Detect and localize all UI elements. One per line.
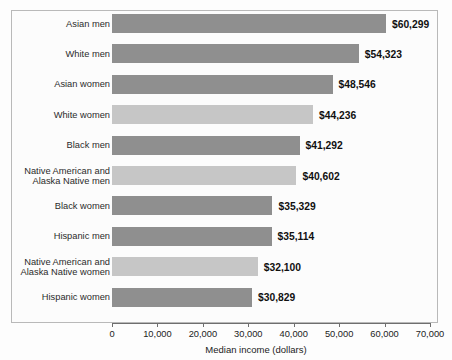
bar-value-label: $60,299	[392, 18, 429, 29]
category-label: Asian men	[6, 18, 110, 29]
bar-value-label: $41,292	[306, 140, 343, 151]
x-axis-line	[112, 323, 430, 324]
bar	[112, 136, 300, 155]
bar-row: White men$54,323	[0, 44, 452, 63]
category-label: White women	[6, 109, 110, 120]
x-axis-tick-label: 10,000	[143, 329, 171, 339]
bar-value-label: $44,236	[319, 109, 356, 120]
x-axis-tick	[339, 323, 340, 327]
category-label: Hispanic women	[6, 292, 110, 303]
bar-value-label: $30,829	[258, 292, 295, 303]
x-axis-tick	[112, 323, 113, 327]
x-axis-tick-label: 40,000	[279, 329, 307, 339]
bar-row: Black women$35,329	[0, 196, 452, 215]
bar	[112, 105, 313, 124]
category-label: Black women	[6, 201, 110, 212]
category-label: White men	[6, 49, 110, 60]
x-axis-tick	[430, 323, 431, 327]
bar-row: Native American and Alaska Native men$40…	[0, 166, 452, 185]
x-axis-tick	[203, 323, 204, 327]
bar-row: Asian men$60,299	[0, 14, 452, 33]
bar-row: Black men$41,292	[0, 136, 452, 155]
x-axis-title-wrap: Median income (dollars)	[0, 344, 452, 355]
bar-value-label: $32,100	[264, 261, 301, 272]
x-axis-tick	[248, 323, 249, 327]
category-label: Native American and Alaska Native women	[6, 256, 110, 277]
bar-value-label: $40,602	[302, 170, 339, 181]
x-axis-tick-label: 60,000	[370, 329, 398, 339]
bar-row: Asian women$48,546	[0, 75, 452, 94]
x-axis-tick	[385, 323, 386, 327]
category-label: Hispanic men	[6, 231, 110, 242]
x-axis-tick-label: 20,000	[189, 329, 217, 339]
bar-value-label: $48,546	[339, 79, 376, 90]
bar-row: Hispanic women$30,829	[0, 288, 452, 307]
bar	[112, 257, 258, 276]
bar-row: White women$44,236	[0, 105, 452, 124]
x-axis-tick-label: 50,000	[325, 329, 353, 339]
bar-rows: Asian men$60,299White men$54,323Asian wo…	[0, 0, 452, 360]
bar	[112, 227, 272, 246]
x-axis-tick-label: 0	[109, 329, 114, 339]
bar-row: Native American and Alaska Native women$…	[0, 257, 452, 276]
x-axis-tick-label: 30,000	[234, 329, 262, 339]
category-label: Native American and Alaska Native men	[6, 165, 110, 186]
x-axis-tick	[294, 323, 295, 327]
bar	[112, 44, 359, 63]
bar-row: Hispanic men$35,114	[0, 227, 452, 246]
bar-value-label: $35,329	[278, 200, 315, 211]
x-axis-tick	[157, 323, 158, 327]
x-axis-tick-label: 70,000	[416, 329, 444, 339]
bar	[112, 14, 386, 33]
bar-value-label: $35,114	[278, 231, 315, 242]
category-label: Asian women	[6, 79, 110, 90]
category-label: Black men	[6, 140, 110, 151]
bar	[112, 288, 252, 307]
x-axis-title: Median income (dollars)	[205, 344, 306, 355]
bar-value-label: $54,323	[365, 48, 402, 59]
bar	[112, 75, 333, 94]
chart-figure: AND GENDER Asian men$60,299White men$54,…	[0, 0, 452, 360]
bar	[112, 166, 296, 185]
bar	[112, 196, 272, 215]
